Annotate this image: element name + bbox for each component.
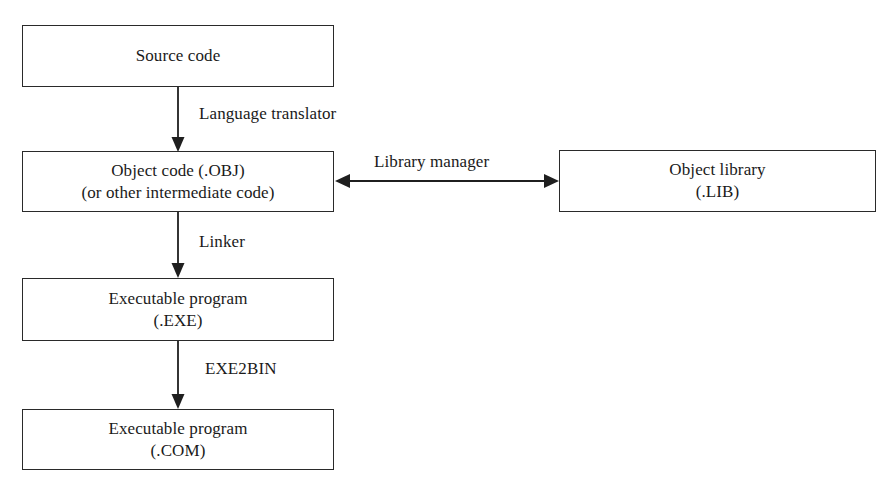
edge-linker — [172, 212, 185, 278]
diagram-canvas: Source code Object code (.OBJ) (or other… — [0, 0, 893, 497]
node-object-code[interactable]: Object code (.OBJ) (or other intermediat… — [22, 151, 334, 212]
node-object-library-line2: (.LIB) — [696, 181, 740, 203]
node-executable-exe-line2: (.EXE) — [153, 310, 202, 332]
edge-label-linker: Linker — [199, 232, 245, 252]
edge-exe2bin — [172, 341, 185, 409]
node-object-library[interactable]: Object library (.LIB) — [559, 150, 876, 212]
node-executable-exe[interactable]: Executable program (.EXE) — [22, 278, 334, 341]
node-executable-exe-line1: Executable program — [108, 288, 247, 310]
node-source-code-line1: Source code — [136, 45, 221, 67]
node-object-library-line1: Object library — [669, 159, 765, 181]
edge-library-manager — [335, 174, 559, 188]
edge-label-language-translator: Language translator — [199, 104, 336, 124]
node-source-code[interactable]: Source code — [22, 25, 334, 87]
node-object-code-line1: Object code (.OBJ) — [111, 160, 245, 182]
node-object-code-line2: (or other intermediate code) — [81, 182, 274, 204]
edge-language-translator — [172, 87, 185, 152]
node-executable-com-line1: Executable program — [108, 418, 247, 440]
node-executable-com[interactable]: Executable program (.COM) — [22, 409, 334, 470]
edge-label-library-manager: Library manager — [374, 152, 489, 172]
node-executable-com-line2: (.COM) — [151, 440, 206, 462]
edge-label-exe2bin: EXE2BIN — [205, 359, 277, 379]
